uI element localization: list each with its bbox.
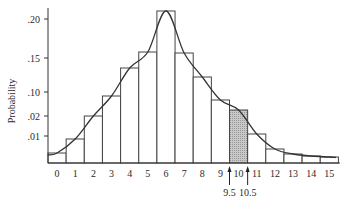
probability-histogram: .20.15.10.02.01 0123456789101112131415 9… — [0, 0, 351, 202]
bar-6 — [157, 11, 175, 163]
bar-8 — [193, 77, 211, 163]
bar-11 — [248, 134, 266, 163]
x-tick-label: 7 — [182, 168, 187, 179]
y-tick-label: .20 — [28, 14, 41, 25]
bar-4 — [121, 68, 139, 163]
y-tick-label: .02 — [28, 111, 41, 122]
annotation-label: 9.5 — [223, 187, 236, 198]
y-axis-label: Probability — [6, 79, 17, 123]
x-tick-label: 13 — [288, 168, 298, 179]
x-tick-label: 11 — [252, 168, 262, 179]
bar-7 — [175, 53, 193, 163]
x-tick-label: 4 — [127, 168, 132, 179]
bar-2 — [84, 116, 102, 163]
x-tick-label: 14 — [306, 168, 316, 179]
x-tick-label: 1 — [73, 168, 78, 179]
x-axis-ticks: 0123456789101112131415 — [55, 168, 335, 179]
x-tick-label: 6 — [163, 168, 168, 179]
x-tick-label: 0 — [55, 168, 60, 179]
bar-1 — [66, 139, 84, 163]
bar-3 — [102, 96, 120, 163]
y-tick-label: .10 — [28, 87, 41, 98]
x-tick-label: 8 — [200, 168, 205, 179]
histogram-bars — [48, 11, 338, 163]
x-tick-label: 15 — [324, 168, 334, 179]
x-tick-label: 3 — [109, 168, 114, 179]
annotation-label: 10.5 — [239, 187, 257, 198]
bar-9 — [211, 100, 229, 163]
y-tick-label: .15 — [28, 53, 41, 64]
y-tick-label: .01 — [28, 131, 41, 142]
bar-5 — [139, 52, 157, 163]
x-tick-label: 2 — [91, 168, 96, 179]
x-tick-label: 5 — [145, 168, 150, 179]
y-axis-ticks: .20.15.10.02.01 — [28, 14, 49, 142]
x-tick-label: 9 — [218, 168, 223, 179]
x-tick-label: 10 — [234, 168, 244, 179]
x-tick-label: 12 — [270, 168, 280, 179]
